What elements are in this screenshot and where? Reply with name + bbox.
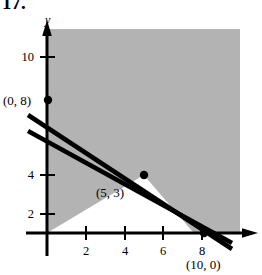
annotation-x-intercept: (10, 0): [186, 258, 221, 271]
x-tick-label-6: 6: [152, 245, 174, 258]
graph-figure: 17.: [0, 0, 262, 275]
x-tick-label-4: 4: [114, 245, 136, 258]
point-marker-5-3: [140, 171, 148, 179]
annotation-y-intercept: (0, 8): [3, 94, 31, 107]
y-tick-label-4: 4: [10, 169, 34, 182]
x-tick-label-8: 8: [191, 245, 213, 258]
y-axis-label: y: [45, 14, 50, 26]
point-marker-10-0: [200, 229, 208, 237]
annotation-vertex: (5, 3): [96, 186, 124, 199]
plot-canvas: [0, 0, 262, 275]
point-marker-0-8: [44, 96, 52, 104]
x-tick-label-2: 2: [75, 245, 97, 258]
shaded-region: [47, 29, 240, 233]
y-tick-label-10: 10: [10, 51, 34, 64]
y-tick-label-2: 2: [10, 208, 34, 221]
